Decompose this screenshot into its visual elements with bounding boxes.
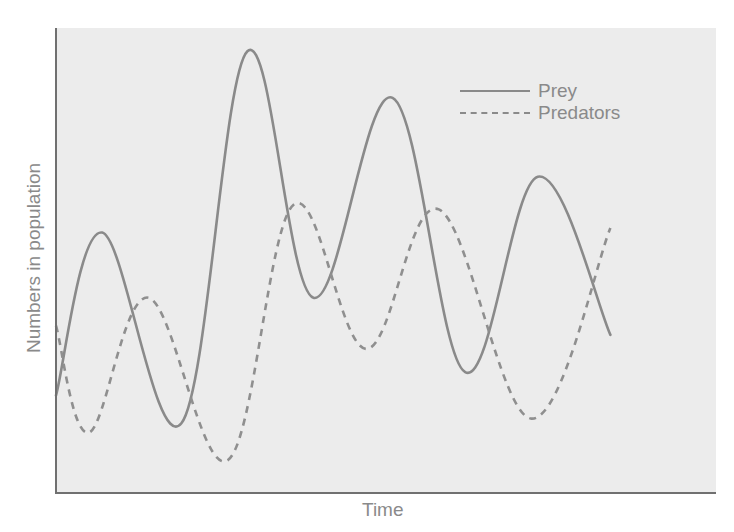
x-axis bbox=[55, 492, 716, 494]
y-axis bbox=[55, 28, 57, 494]
solid-line-icon bbox=[460, 90, 530, 92]
legend: Prey Predators bbox=[460, 80, 620, 124]
y-axis-label: Numbers in population bbox=[23, 163, 45, 353]
legend-item-prey: Prey bbox=[460, 80, 620, 102]
chart-curves bbox=[0, 0, 734, 532]
dashed-line-icon bbox=[460, 112, 530, 114]
predator-prey-chart: Numbers in population Time Prey Predator… bbox=[0, 0, 734, 532]
x-axis-label: Time bbox=[362, 499, 404, 521]
legend-label: Prey bbox=[538, 80, 577, 102]
legend-label: Predators bbox=[538, 102, 620, 124]
legend-item-predators: Predators bbox=[460, 102, 620, 124]
